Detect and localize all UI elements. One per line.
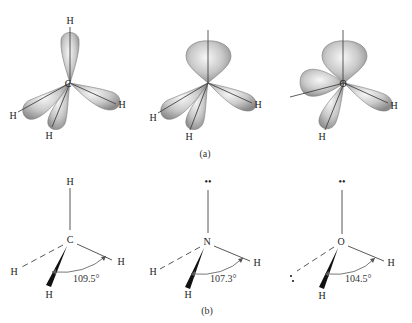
- lone-pair-dot: [290, 275, 292, 277]
- atom-label-h-left: H: [9, 110, 16, 121]
- atom-label-h-bottom: H: [184, 289, 191, 300]
- orbital-geometry-figure: H C H H H H H H O H H (a): [0, 0, 412, 323]
- lone-pair-top: ••: [338, 176, 345, 187]
- atom-label-h-right: H: [117, 256, 124, 267]
- atom-label-c: C: [67, 234, 74, 245]
- atom-label-h-right: H: [253, 257, 260, 268]
- atom-label-h-bottom: H: [185, 131, 192, 142]
- atom-label-h-right: H: [390, 100, 397, 111]
- atom-label-o: O: [339, 78, 346, 89]
- atom-label-o: O: [337, 236, 344, 247]
- lone-pair-top: ••: [204, 176, 211, 187]
- atom-label-h-bottom: H: [45, 289, 52, 300]
- atom-label-h-top: H: [66, 15, 73, 26]
- bond-angle-label: 107.3°: [210, 273, 237, 284]
- methane-orbital-model: H C H H H: [9, 15, 125, 141]
- atom-label-h-right: H: [254, 99, 261, 110]
- atom-label-h-left: H: [149, 112, 156, 123]
- methane-structure: H C H H H 109.5°: [10, 176, 124, 300]
- atom-label-n: N: [203, 236, 210, 247]
- atom-label-h-bottom: H: [318, 131, 325, 142]
- atom-label-h-bottom: H: [45, 130, 52, 141]
- bond-angle-label: 109.5°: [73, 273, 100, 284]
- atom-label-c: C: [65, 78, 72, 89]
- ammonia-structure: •• N H H H 107.3°: [149, 176, 260, 300]
- atom-label-h-bottom: H: [318, 290, 325, 301]
- atom-label-h-right: H: [387, 257, 394, 268]
- bond-angle-label: 104.5°: [345, 273, 372, 284]
- panel-a-caption: (a): [199, 148, 210, 160]
- atom-label-h-top: H: [66, 176, 73, 187]
- panel-b-caption: (b): [201, 305, 213, 317]
- lone-pair-dot: [292, 280, 294, 282]
- water-structure: •• O H H 104.5°: [290, 176, 395, 301]
- atom-label-h-right: H: [118, 99, 125, 110]
- atom-label-h-left: H: [10, 266, 17, 277]
- water-orbital-model: O H H: [290, 30, 398, 142]
- atom-label-h-left: H: [149, 266, 156, 277]
- ammonia-orbital-model: H H H: [149, 30, 261, 142]
